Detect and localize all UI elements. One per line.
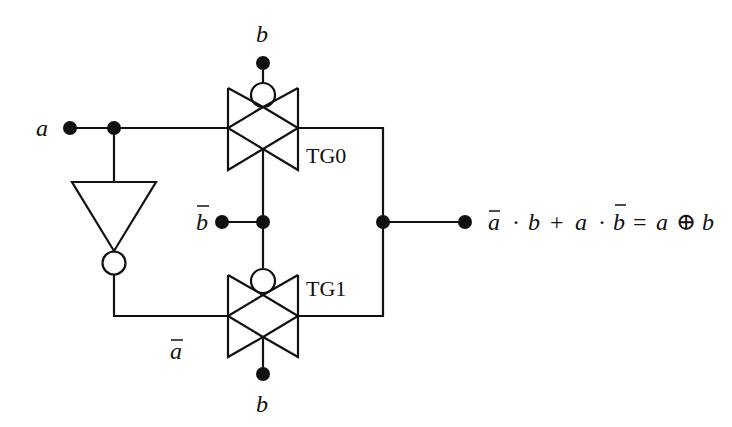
expr-abar: a xyxy=(488,209,500,235)
tg0-control-bubble-icon xyxy=(251,83,275,107)
bbar-terminal[interactable] xyxy=(215,215,229,229)
expr-xor: ⊕ xyxy=(676,209,696,235)
bottom-b-terminal[interactable] xyxy=(256,367,270,381)
tg0-right-triangles xyxy=(263,88,298,170)
inverter-bubble-icon xyxy=(103,252,126,275)
expr-a: a xyxy=(575,209,587,235)
expr-dot2: · xyxy=(598,209,606,235)
expr-equals: = xyxy=(633,209,647,235)
inverter-triangle-icon xyxy=(72,182,156,251)
tg0-label: TG0 xyxy=(306,143,346,168)
expr-a2: a xyxy=(656,209,668,235)
bottom-b-label: b xyxy=(256,391,268,417)
expr-b2: b xyxy=(702,209,714,235)
tg0-left-triangles xyxy=(228,88,263,170)
junction-bbar xyxy=(256,215,270,229)
tg1-right-triangles xyxy=(263,275,298,357)
xor-circuit-diagram: a a b TG0 b TG1 b xyxy=(0,0,732,427)
expr-plus: + xyxy=(550,209,564,235)
output-expression: a · b + a · b = a ⊕ b xyxy=(488,205,714,235)
tg1-label: TG1 xyxy=(306,276,346,301)
inverter xyxy=(72,182,156,275)
wire-abar-to-tg1 xyxy=(114,275,228,316)
svg-text:a · b +: a · b + a · b = a ⊕ b xyxy=(488,209,714,235)
expr-bbar: b xyxy=(613,209,625,235)
abar-label: a xyxy=(170,338,182,364)
bbar-label: b xyxy=(196,209,208,235)
expr-dot1: · xyxy=(512,209,520,235)
expr-b: b xyxy=(528,209,540,235)
tg1-left-triangles xyxy=(228,275,263,357)
top-b-label: b xyxy=(256,21,268,47)
input-a-label: a xyxy=(36,115,48,141)
output-terminal[interactable] xyxy=(458,215,472,229)
tg1-control-bubble-icon xyxy=(251,269,275,293)
